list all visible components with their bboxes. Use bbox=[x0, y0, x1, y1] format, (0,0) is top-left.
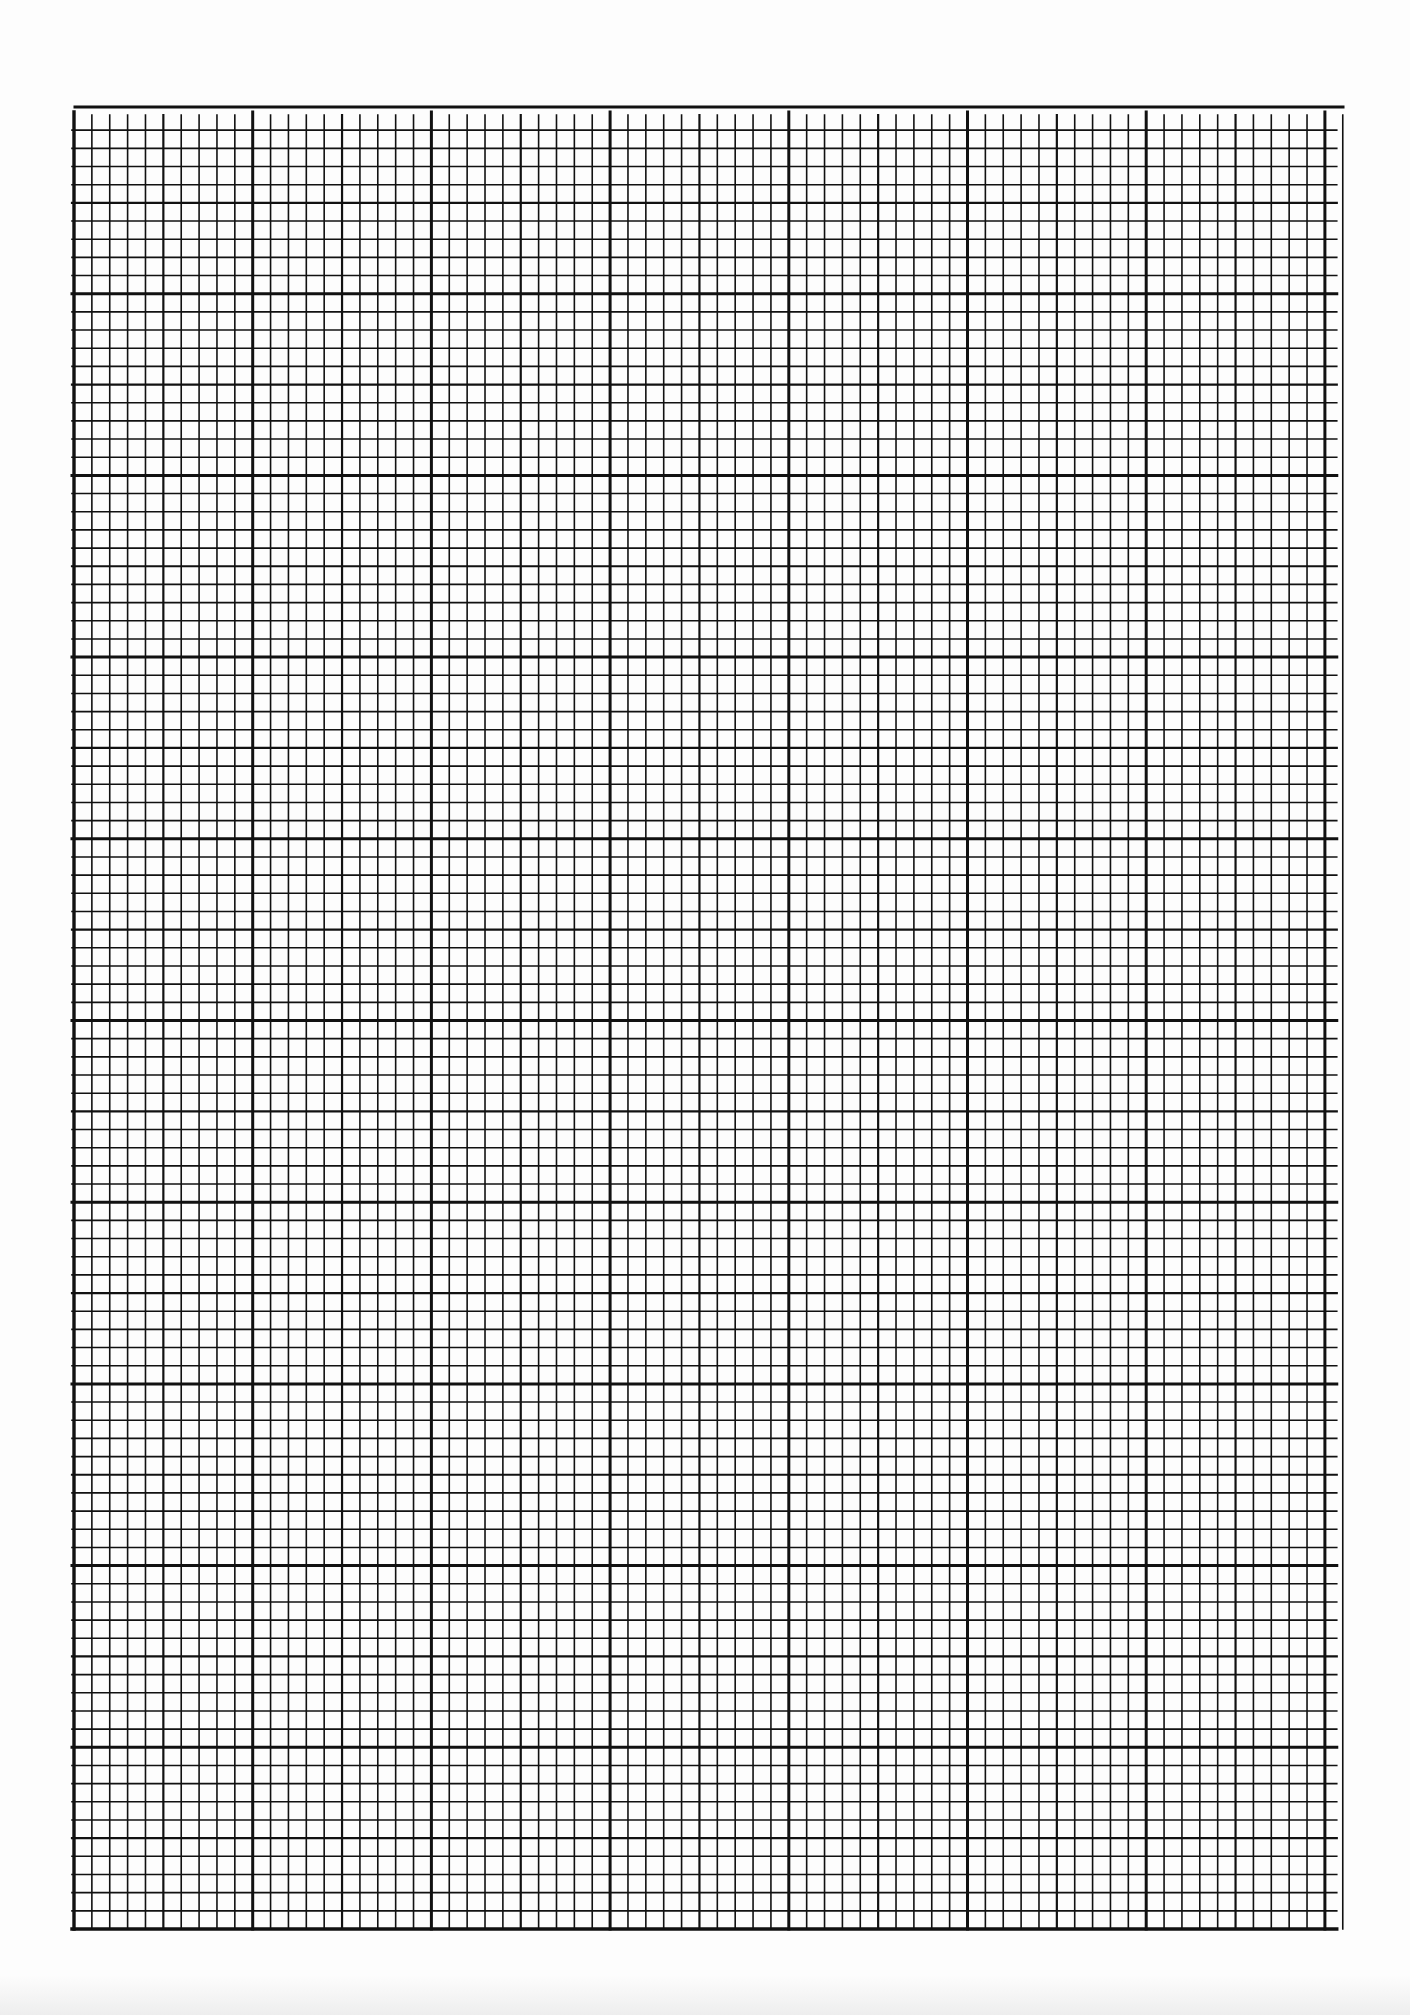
scan-shadow-edge bbox=[0, 1975, 1410, 2015]
graph-grid bbox=[0, 0, 1410, 2015]
graph-paper-sheet: graph-paper bbox=[0, 0, 1410, 2015]
